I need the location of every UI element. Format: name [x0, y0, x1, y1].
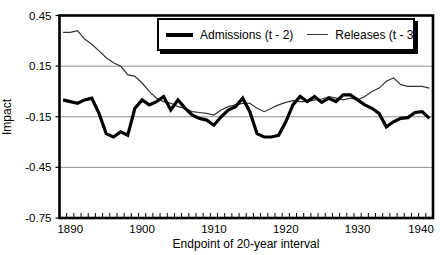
x-tick-label: 1940: [408, 223, 434, 235]
admissions-series-line: [63, 95, 429, 137]
legend-label-releases: Releases (t - 3): [335, 28, 417, 42]
x-tick-label: 1890: [57, 223, 83, 235]
x-tick-label: 1920: [273, 223, 299, 235]
x-tick-label: 1930: [345, 223, 371, 235]
y-tick-label: 0.45: [29, 10, 51, 22]
y-tick-label: 0.15: [29, 60, 51, 72]
impact-line-chart: 0.450.15-0.15-0.45-0.7518901900191019201…: [0, 0, 440, 255]
legend-label-admissions: Admissions (t - 2): [200, 28, 293, 42]
x-axis-title: Endpoint of 20-year interval: [59, 237, 433, 251]
releases-line-swatch: [307, 34, 328, 35]
x-tick-label: 1910: [201, 223, 227, 235]
x-tick-label: 1900: [129, 223, 155, 235]
y-axis-title: Impact: [0, 91, 14, 143]
admissions-line-swatch: [166, 33, 193, 37]
y-tick-label: -0.15: [25, 111, 51, 123]
legend-item-releases: Releases (t - 3): [307, 28, 417, 42]
y-tick-label: -0.45: [25, 161, 51, 173]
y-tick-label: -0.75: [25, 212, 51, 224]
legend-item-admissions: Admissions (t - 2): [166, 28, 293, 42]
legend: Admissions (t - 2) Releases (t - 3): [157, 18, 415, 51]
